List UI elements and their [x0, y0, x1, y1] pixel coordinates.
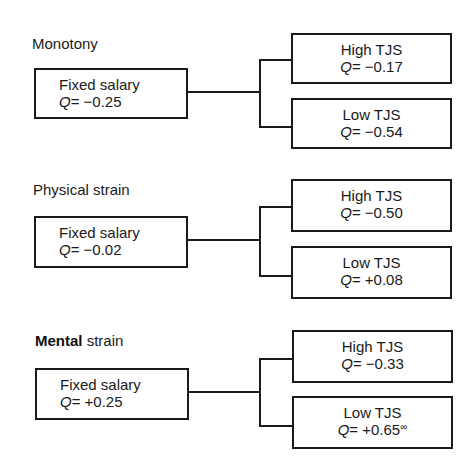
- root-label: Fixed salary: [36, 224, 186, 241]
- high-label: High TJS: [293, 187, 450, 204]
- connector-branch-monotony: [259, 59, 261, 128]
- q-variable: Q: [340, 58, 352, 75]
- connector-low-monotony: [259, 126, 292, 128]
- q-variable: Q: [340, 123, 352, 140]
- q-value: = −0.17: [352, 58, 403, 75]
- q-value: = −0.02: [71, 241, 122, 258]
- low-q: Q= +0.65∞: [294, 421, 451, 438]
- q-value: = +0.25: [72, 393, 123, 410]
- connector-branch-mental-strain: [259, 358, 261, 427]
- connector-high-physical-strain: [259, 206, 292, 208]
- q-variable: Q: [341, 355, 353, 372]
- low-label: Low TJS: [293, 254, 450, 271]
- connector-root-mental-strain: [189, 391, 261, 393]
- section-title-bold: Mental: [35, 332, 83, 349]
- q-value: = −0.33: [353, 355, 404, 372]
- q-value: = −0.25: [71, 93, 122, 110]
- low-label: Low TJS: [293, 106, 450, 123]
- section-title-text: Monotony: [32, 35, 98, 52]
- root-box-monotony: Fixed salary Q= −0.25: [34, 68, 188, 119]
- q-note: ∞: [400, 421, 407, 432]
- section-title-monotony: Monotony: [32, 36, 98, 52]
- high-q: Q= −0.50: [293, 204, 450, 221]
- root-q: Q= −0.02: [36, 241, 186, 258]
- root-q: Q= −0.25: [36, 93, 186, 110]
- q-variable: Q: [340, 204, 352, 221]
- section-title-text: Physical strain: [33, 181, 130, 198]
- connector-root-monotony: [188, 91, 261, 93]
- high-tjs-box-mental-strain: High TJS Q= −0.33: [292, 330, 453, 383]
- q-value: = −0.50: [352, 204, 403, 221]
- high-label: High TJS: [294, 338, 451, 355]
- q-value: = +0.65: [349, 421, 400, 438]
- low-q: Q= +0.08: [293, 271, 450, 288]
- connector-low-physical-strain: [259, 275, 292, 277]
- low-tjs-box-physical-strain: Low TJS Q= +0.08: [291, 246, 452, 299]
- high-q: Q= −0.17: [293, 58, 450, 75]
- q-variable: Q: [59, 93, 71, 110]
- connector-high-monotony: [259, 59, 292, 61]
- connector-root-physical-strain: [188, 239, 261, 241]
- low-tjs-box-mental-strain: Low TJS Q= +0.65∞: [292, 396, 453, 449]
- root-q: Q= +0.25: [37, 393, 187, 410]
- connector-branch-physical-strain: [259, 206, 261, 277]
- q-variable: Q: [340, 271, 352, 288]
- root-box-physical-strain: Fixed salary Q= −0.02: [34, 216, 188, 268]
- q-variable: Q: [338, 421, 350, 438]
- section-title-physical-strain: Physical strain: [33, 182, 130, 198]
- section-title-text: strain: [83, 332, 124, 349]
- high-tjs-box-physical-strain: High TJS Q= −0.50: [291, 179, 452, 232]
- section-title-mental-strain: Mental strain: [35, 333, 123, 349]
- connector-low-mental-strain: [259, 425, 292, 427]
- root-box-mental-strain: Fixed salary Q= +0.25: [35, 368, 189, 420]
- low-tjs-box-monotony: Low TJS Q= −0.54: [291, 98, 452, 149]
- q-value: = −0.54: [352, 123, 403, 140]
- q-variable: Q: [60, 393, 72, 410]
- root-label: Fixed salary: [37, 376, 187, 393]
- high-tjs-box-monotony: High TJS Q= −0.17: [291, 33, 452, 84]
- low-label: Low TJS: [294, 404, 451, 421]
- high-q: Q= −0.33: [294, 355, 451, 372]
- q-value: = +0.08: [352, 271, 403, 288]
- low-q: Q= −0.54: [293, 123, 450, 140]
- root-label: Fixed salary: [36, 76, 186, 93]
- high-label: High TJS: [293, 41, 450, 58]
- q-variable: Q: [59, 241, 71, 258]
- connector-high-mental-strain: [259, 358, 292, 360]
